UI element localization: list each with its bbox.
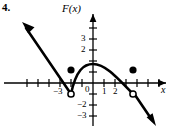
y-axis-title: F(x) <box>62 2 81 14</box>
x-tick-label-2: 2 <box>113 86 118 96</box>
y-axis <box>90 14 97 126</box>
y-tick-label-2: 2 <box>81 44 86 54</box>
y-tick-label-neg2: −2 <box>77 99 87 109</box>
y-tick-label-0: 0 <box>85 84 90 94</box>
x-axis-title: x <box>161 84 165 95</box>
x-tick-label-1: 1 <box>102 86 107 96</box>
x-tick-label-neg3: −3 <box>53 86 63 96</box>
y-tick-label-3: 3 <box>81 33 86 43</box>
y-tick-label-neg3: −3 <box>77 110 87 120</box>
right-ray-curve <box>133 92 156 126</box>
graph-figure: 4. <box>0 0 171 132</box>
